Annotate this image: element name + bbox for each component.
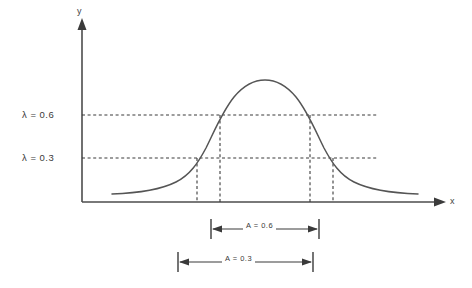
diagram-canvas [0, 0, 472, 288]
y-axis-label: y [77, 6, 82, 16]
threshold-lines-group [82, 115, 378, 158]
y-axis-arrowhead [78, 18, 87, 30]
bell-curve-threshold-diagram: y x λ = 0.6 λ = 0.3 A = 0.6 A = 0.3 [0, 0, 472, 288]
annotation-high-right-arrowhead [308, 226, 318, 233]
annotation-label-area-low: A = 0.3 [222, 254, 255, 263]
threshold-label-low: λ = 0.3 [22, 152, 54, 163]
annotation-low-left-arrowhead [179, 259, 189, 266]
threshold-label-high: λ = 0.6 [22, 109, 54, 120]
axis-group [78, 18, 447, 207]
annotation-low-right-arrowhead [302, 259, 312, 266]
x-axis-arrowhead [434, 198, 446, 207]
x-axis-label: x [450, 196, 455, 206]
bell-curve-path [112, 80, 418, 194]
annotation-high-left-arrowhead [212, 226, 222, 233]
annotation-label-area-high: A = 0.6 [243, 221, 276, 230]
